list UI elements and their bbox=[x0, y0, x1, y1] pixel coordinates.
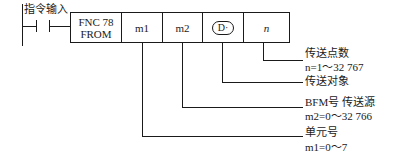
fnc-number: FNC 78 bbox=[78, 16, 113, 28]
leader-m2-h bbox=[182, 107, 303, 108]
power-rail bbox=[22, 4, 23, 46]
annotation-n-range: n=1～32 767 bbox=[305, 61, 363, 74]
device-d-badge: D· bbox=[212, 21, 235, 35]
contact-label: 指令输入 bbox=[24, 3, 68, 16]
annotation-m1-title: 单元号 bbox=[305, 126, 338, 139]
leader-m2-v bbox=[182, 43, 183, 107]
annotation-m2-title: BFM号 传送源 bbox=[305, 96, 375, 109]
leader-d-h bbox=[222, 82, 303, 83]
leader-m1-h bbox=[142, 136, 303, 137]
leader-m1-v bbox=[142, 43, 143, 136]
annotation-d-title: 传送对象 bbox=[305, 75, 349, 88]
rung-wire-right bbox=[49, 26, 70, 27]
leader-d-v bbox=[222, 43, 223, 82]
operand-m1: m1 bbox=[121, 12, 163, 43]
operand-m2: m2 bbox=[162, 12, 203, 43]
operand-d: D· bbox=[202, 12, 244, 43]
rung-wire-left bbox=[22, 26, 36, 27]
annotation-m2-range: m2=0～32 766 bbox=[305, 110, 372, 123]
fnc-cell: FNC 78 FROM bbox=[70, 12, 122, 43]
fnc-mnemonic: FROM bbox=[80, 28, 111, 40]
leader-n-v bbox=[263, 43, 264, 60]
operand-n: n bbox=[243, 12, 290, 43]
leader-n-h bbox=[263, 60, 303, 61]
annotation-m1-range: m1=0～7 bbox=[305, 141, 347, 154]
annotation-n-title: 传送点数 bbox=[305, 47, 349, 60]
contact-bar-left bbox=[36, 20, 37, 32]
